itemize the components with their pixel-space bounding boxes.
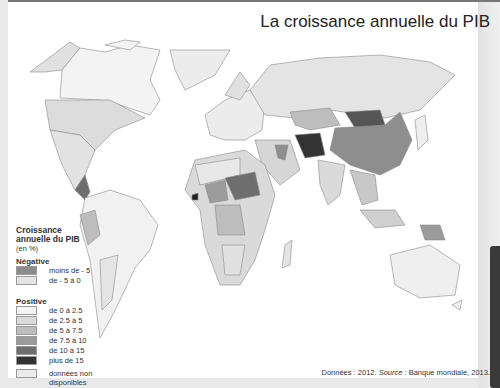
legend-swatch <box>16 266 37 275</box>
source-note: Données : 2012. Source : Banque mondiale… <box>322 368 490 377</box>
australia <box>390 245 460 298</box>
legend-negative-heading: Négative <box>16 257 136 266</box>
legend-item: de - 5 à 0 <box>16 276 136 286</box>
russia <box>250 55 455 118</box>
greenland <box>170 50 230 90</box>
india <box>318 160 345 205</box>
legend-item-na: données nondisponibles <box>16 369 136 388</box>
legend-swatch <box>16 326 37 335</box>
legend-swatch <box>16 316 37 325</box>
legend-item: de 7.5 à 10 <box>16 336 136 346</box>
legend-item: plus de 15 <box>16 356 136 366</box>
legend-title-2: annuelle du PIB <box>16 235 136 244</box>
legend: Croissance annuelle du PIB (en %) Négati… <box>16 226 136 388</box>
legend-swatch <box>16 356 37 365</box>
legend-swatch <box>16 369 37 378</box>
legend-item: de 10 à 15 <box>16 346 136 356</box>
legend-unit: (en %) <box>16 244 136 253</box>
legend-swatch <box>16 276 37 285</box>
legend-swatch <box>16 336 37 345</box>
legend-item: de 0 à 2.5 <box>16 306 136 316</box>
legend-swatch <box>16 346 37 355</box>
legend-item: moins de - 5 <box>16 266 136 276</box>
legend-swatch <box>16 306 37 315</box>
legend-item: de 2.5 à 5 <box>16 316 136 326</box>
legend-positive-heading: Positive <box>16 297 136 306</box>
legend-item: de 5 à 7.5 <box>16 326 136 336</box>
map-title: La croissance annuelle du PIB <box>260 12 490 32</box>
